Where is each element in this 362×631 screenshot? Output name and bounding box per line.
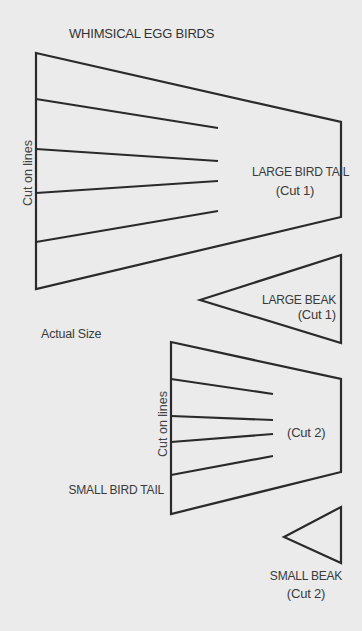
small-tail-cut-line-2 (171, 416, 273, 420)
actual-size-note: Actual Size (41, 327, 101, 342)
large-tail-cut-line-4 (36, 211, 218, 242)
large-tail-cut-instruction: Cut on lines (21, 140, 35, 206)
small-tail-cut-line-1 (171, 379, 273, 394)
small-beak-label: SMALL BEAK (264, 569, 348, 584)
small-beak-outline (284, 507, 341, 563)
small-tail-cut-instruction: Cut on lines (156, 391, 170, 457)
large-beak-label: LARGE BEAK (240, 293, 336, 308)
large-tail-cut-line-3 (36, 181, 218, 193)
page-title: WHIMSICAL EGG BIRDS (69, 26, 214, 41)
large-tail-count: (Cut 1) (252, 183, 338, 198)
large-beak-count: (Cut 1) (240, 307, 336, 322)
pattern-page: WHIMSICAL EGG BIRDS Cut on lines LARGE B… (0, 0, 362, 631)
small-tail-label: SMALL BIRD TAIL (40, 483, 164, 498)
small-tail-count: (Cut 2) (287, 425, 325, 440)
large-tail-cut-line-2 (36, 149, 218, 161)
small-tail-cut-line-4 (171, 456, 273, 475)
large-tail-cut-line-1 (36, 99, 218, 128)
small-beak-count: (Cut 2) (264, 586, 348, 601)
large-tail-label: LARGE BIRD TAIL (252, 165, 338, 180)
small-tail-cut-line-3 (171, 434, 273, 442)
